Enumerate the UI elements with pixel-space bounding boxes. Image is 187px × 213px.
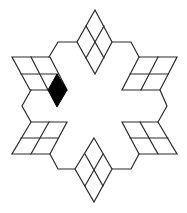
lower-left-parallelogram: [12, 122, 67, 154]
connector-segment: [112, 42, 139, 57]
connector-segment: [22, 90, 31, 122]
upper-right-parallelogram: [122, 57, 177, 90]
connector-segment: [112, 154, 139, 169]
puzzle-diagram: [0, 0, 187, 213]
black-rhombus-tile: [48, 74, 67, 107]
connector-segment: [49, 42, 77, 57]
tile-groups: [12, 10, 177, 202]
connector-segment: [50, 154, 75, 169]
bottom-rhombus: [75, 138, 112, 202]
connector-segment: [158, 90, 167, 122]
lower-right-parallelogram: [122, 122, 177, 154]
star-figure: [0, 0, 187, 213]
top-rhombus: [77, 10, 112, 74]
highlighted-rhombus: [48, 74, 67, 107]
hexagon-connectors: [22, 42, 167, 169]
